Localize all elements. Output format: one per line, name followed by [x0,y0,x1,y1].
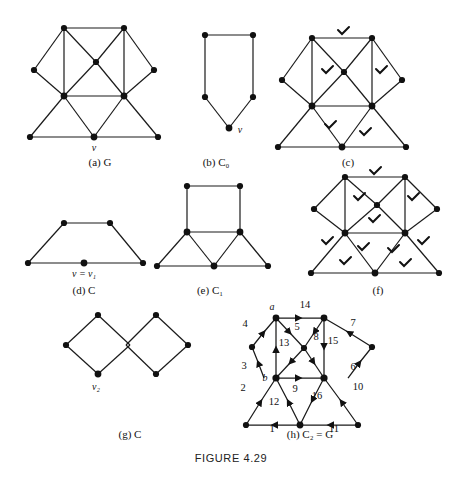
panel-c-vertices [275,35,409,151]
edge-number: 12 [269,396,280,407]
edge-number: 6 [350,361,355,372]
panel-h-edge-numbers: 1 2 3 4 5 6 7 8 9 10 11 12 13 14 15 16 [240,299,363,434]
panel-a-vertices [27,25,161,141]
checkmark-icon [369,215,380,222]
panel-g-vertex-label-v2: v₂ [92,381,100,392]
panel-g-graph: v₂ (g) C [63,312,191,441]
panel-a-graph: v (a) G [27,25,161,169]
panel-h-caption: (h) C₂ = G [287,428,333,441]
checkmark-icon [408,193,419,200]
panel-d-vertex-label-v1: v = v₁ [72,268,96,279]
panel-g-edges [66,315,188,374]
checkmark-icon [322,66,333,73]
panel-g-caption: (g) C [119,428,142,441]
figure-canvas: v (a) G v (b) C₀ [0,0,463,485]
checkmark-icon [358,243,369,250]
panel-a-vertex-label-v: v [92,142,97,153]
panel-e-graph: (e) C₁ [154,183,271,297]
panel-c-edges [278,38,406,147]
panel-c-checkmarks [322,27,387,135]
panel-b-graph: v (b) C₀ [202,32,256,169]
panel-a-edges [30,28,158,137]
edge-number: 4 [242,318,248,329]
figure-container: v (a) G v (b) C₀ [0,0,463,485]
panel-b-vertices [202,32,256,131]
panel-b-caption: (b) C₀ [203,156,230,169]
edge-number: 9 [292,383,297,394]
panel-d-edges [28,223,143,263]
panel-c-graph: (c) [275,27,409,169]
edge-number: 15 [328,335,339,346]
checkmark-icon [370,167,381,174]
checkmark-icon [354,193,365,200]
panel-e-edges [157,186,268,266]
figure-title: FIGURE 4.29 [195,452,268,464]
checkmark-icon [322,237,333,244]
checkmark-icon [400,259,411,266]
edge-number: 7 [350,317,355,328]
panel-f-caption: (f) [373,284,384,297]
panel-f-edges [311,177,439,273]
panel-h-graph: a b 1 2 3 4 5 6 7 8 9 10 11 12 13 14 15 … [240,299,375,441]
panel-e-caption: (e) C₁ [197,284,223,297]
panel-f-checkmarks [322,167,429,266]
panel-a-caption: (a) G [89,156,112,169]
edge-number: 8 [313,331,318,342]
panel-b-edges [205,35,253,128]
checkmark-icon [338,27,349,34]
panel-b-vertex-label-v: v [238,124,243,135]
panel-h-vertex-label-b: b [263,372,268,383]
panel-f-vertices [308,174,442,277]
edge-number: 13 [279,337,290,348]
panel-d-vertices [25,220,146,267]
panel-f-graph: (f) [308,167,442,297]
edge-number: 16 [312,390,323,401]
checkmark-icon [418,237,429,244]
panel-d-graph: v = v₁ (d) C [25,220,146,297]
edge-number: 2 [240,382,245,393]
panel-h-vertex-label-a: a [270,301,275,312]
checkmark-icon [376,66,387,73]
checkmark-icon [340,257,351,264]
checkmark-icon [360,128,371,135]
panel-c-caption: (c) [342,156,355,169]
panel-e-vertices [154,183,271,270]
edge-number: 14 [300,299,311,310]
edge-number: 5 [294,321,299,332]
panel-d-caption: (d) C [73,284,96,297]
edge-number: 3 [241,360,246,371]
edge-number: 1 [269,423,274,434]
edge-number: 10 [353,381,364,392]
checkmark-icon [325,121,336,128]
